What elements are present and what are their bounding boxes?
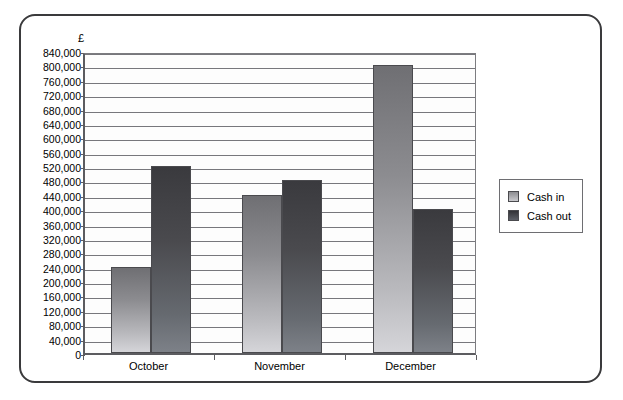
gridline [85,112,475,113]
chart-legend: Cash inCash out [499,179,583,233]
gridline [85,155,475,156]
y-tick-label: 120,000 [23,306,81,318]
bar-november-cash-out [282,180,322,353]
y-tick-label: 520,000 [23,162,81,174]
gridline [85,126,475,127]
chart-frame: £ 040,00080,000120,000160,000200,000240,… [19,14,602,383]
y-tick-label: 440,000 [23,191,81,203]
y-tick-label: 240,000 [23,263,81,275]
x-tick-label-december: December [385,360,436,372]
y-tick-label: 560,000 [23,148,81,160]
gridline [85,54,475,55]
legend-swatch-icon [508,210,519,221]
gridline [85,97,475,98]
x-tick-label-october: October [129,360,168,372]
legend-item-cash-out[interactable]: Cash out [508,206,571,225]
y-tick-label: 840,000 [23,47,81,59]
gridline [85,83,475,84]
y-tick-label: 80,000 [23,320,81,332]
bar-october-cash-out [151,166,191,353]
x-tick-mark [345,355,346,360]
gridline [85,169,475,170]
bar-december-cash-out [413,209,453,353]
bar-december-cash-in [373,65,413,353]
gridline [85,183,475,184]
y-tick-label: 360,000 [23,220,81,232]
y-tick-label: 280,000 [23,248,81,260]
y-tick-label: 800,000 [23,61,81,73]
legend-label: Cash in [527,191,564,203]
y-tick-label: 600,000 [23,133,81,145]
legend-label: Cash out [527,210,571,222]
y-tick-label: 680,000 [23,105,81,117]
y-tick-label: 760,000 [23,76,81,88]
y-tick-label: 0 [23,349,81,361]
y-tick-label: 160,000 [23,291,81,303]
y-tick-label: 200,000 [23,277,81,289]
y-axis-labels: 040,00080,000120,000160,000200,000240,00… [21,53,81,355]
y-tick-label: 320,000 [23,234,81,246]
y-tick-label: 720,000 [23,90,81,102]
plot-area [83,53,476,355]
bar-october-cash-in [111,267,151,353]
x-axis-labels: OctoberNovemberDecember [83,360,476,380]
x-tick-mark [214,355,215,360]
y-axis-title: £ [61,32,101,44]
gridline [85,68,475,69]
y-tick-label: 640,000 [23,119,81,131]
legend-item-cash-in[interactable]: Cash in [508,187,571,206]
y-tick-label: 480,000 [23,176,81,188]
gridline [85,140,475,141]
y-tick-label: 400,000 [23,205,81,217]
bar-november-cash-in [242,195,282,353]
x-tick-mark [476,355,477,360]
y-tick-label: 40,000 [23,335,81,347]
legend-swatch-icon [508,191,519,202]
x-tick-mark [83,355,84,360]
x-tick-label-november: November [254,360,305,372]
